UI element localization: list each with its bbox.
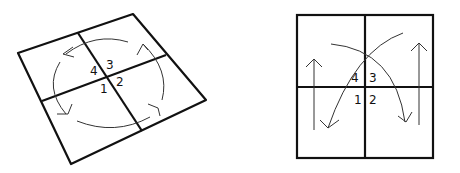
quadrant-label-2: 2 bbox=[116, 75, 124, 89]
arc-right bbox=[331, 44, 405, 122]
grid-divider-diagonal bbox=[78, 33, 142, 131]
quadrant-label-4: 4 bbox=[351, 71, 359, 85]
grid-outline bbox=[18, 14, 206, 164]
arrow-head-topright-icon bbox=[137, 44, 148, 55]
rotation-arc-right bbox=[143, 44, 164, 100]
quadrant-label-4: 4 bbox=[90, 64, 98, 78]
perspective-grid: 4 3 1 2 bbox=[18, 14, 206, 164]
flat-grid: 4 3 1 2 bbox=[297, 15, 433, 158]
rotation-arc-top bbox=[66, 39, 128, 54]
quadrant-label-2: 2 bbox=[369, 93, 377, 107]
arrow-head-bottomright-icon bbox=[148, 104, 160, 116]
quadrant-label-1: 1 bbox=[100, 82, 108, 96]
quadrant-label-1: 1 bbox=[354, 93, 362, 107]
quadrant-label-3: 3 bbox=[369, 71, 377, 85]
diagram-canvas: 4 3 1 2 4 3 1 2 bbox=[0, 0, 460, 173]
quadrant-label-3: 3 bbox=[106, 58, 114, 72]
rotation-arc-left bbox=[53, 62, 66, 114]
